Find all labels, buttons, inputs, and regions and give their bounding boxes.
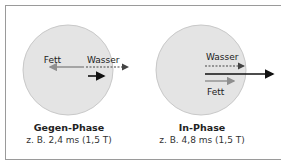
caption-title: In-Phase xyxy=(142,122,262,134)
caption-opposed-phase: Gegen-Phase z. B. 2,4 ms (1,5 T) xyxy=(9,122,129,146)
caption-title: Gegen-Phase xyxy=(9,122,129,134)
fat-label: Fett xyxy=(207,87,225,97)
caption-subtitle: z. B. 2,4 ms (1,5 T) xyxy=(9,134,129,146)
panel-in-phase: Wasser Fett xyxy=(156,25,273,115)
water-label: Wasser xyxy=(206,52,239,62)
fat-label: Fett xyxy=(44,55,62,65)
caption-subtitle: z. B. 4,8 ms (1,5 T) xyxy=(142,134,262,146)
voxel-circle xyxy=(156,25,246,115)
water-label: Wasser xyxy=(87,55,120,65)
voxel-circle xyxy=(23,25,113,115)
caption-in-phase: In-Phase z. B. 4,8 ms (1,5 T) xyxy=(142,122,262,146)
panel-opposed-phase: Fett Wasser xyxy=(23,25,128,115)
